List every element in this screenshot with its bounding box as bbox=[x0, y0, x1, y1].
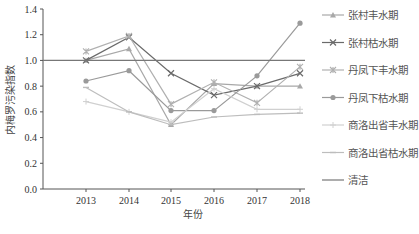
legend-item: 丹凤下丰水期 bbox=[322, 64, 408, 76]
plus-marker-icon bbox=[297, 106, 303, 112]
star-marker-icon bbox=[168, 101, 174, 107]
circle-marker-icon bbox=[83, 78, 88, 83]
triangle-marker-icon bbox=[126, 46, 132, 51]
series-line bbox=[86, 23, 300, 111]
series-0 bbox=[83, 46, 303, 127]
series-line bbox=[86, 36, 300, 104]
x-axis-label: 年份 bbox=[183, 208, 203, 220]
plus-marker-icon bbox=[83, 99, 89, 105]
y-tick-label: 0.6 bbox=[25, 106, 38, 117]
x-tick-label: 2017 bbox=[247, 195, 267, 206]
x-marker-icon bbox=[168, 70, 174, 76]
plus-marker-icon bbox=[254, 106, 260, 112]
series-1 bbox=[83, 34, 303, 98]
y-tick-label: 1.2 bbox=[25, 29, 38, 40]
legend-item: 张村枯水期 bbox=[322, 37, 398, 49]
legend-item: 张村丰水期 bbox=[322, 9, 398, 21]
legend-label: 商洛出省枯水期 bbox=[348, 147, 418, 159]
legend: 张村丰水期张村枯水期丹凤下丰水期丹凤下枯水期商洛出省丰水期商洛出省枯水期清洁 bbox=[322, 9, 418, 186]
legend-label: 商洛出省丰水期 bbox=[348, 119, 418, 131]
star-marker-icon bbox=[254, 100, 260, 106]
legend-label: 丹凤下丰水期 bbox=[348, 64, 408, 76]
y-tick-label: 1.0 bbox=[25, 55, 38, 66]
star-marker-icon bbox=[211, 79, 217, 85]
circle-marker-icon bbox=[168, 108, 173, 113]
legend-label: 张村枯水期 bbox=[348, 37, 398, 49]
y-tick-label: 1.4 bbox=[25, 4, 38, 15]
legend-item: 商洛出省枯水期 bbox=[322, 147, 418, 159]
legend-label: 张村丰水期 bbox=[348, 9, 398, 21]
plot-area bbox=[43, 21, 305, 128]
x-tick-label: 2018 bbox=[290, 195, 310, 206]
circle-marker-icon bbox=[297, 21, 302, 26]
x-tick-label: 2016 bbox=[204, 195, 224, 206]
y-tick-label: 0.0 bbox=[25, 184, 38, 195]
axes: 0.00.20.40.60.81.01.21.42013201420152016… bbox=[25, 4, 311, 207]
legend-label: 丹凤下枯水期 bbox=[348, 92, 408, 104]
circle-marker-icon bbox=[330, 95, 335, 100]
x-tick-label: 2013 bbox=[76, 195, 96, 206]
circle-marker-icon bbox=[126, 68, 131, 73]
x-tick-label: 2015 bbox=[161, 195, 181, 206]
y-tick-label: 0.8 bbox=[25, 81, 38, 92]
plus-marker-icon bbox=[330, 122, 336, 128]
legend-item: 清洁 bbox=[322, 174, 368, 186]
x-tick-label: 2014 bbox=[119, 195, 139, 206]
legend-label: 清洁 bbox=[348, 174, 368, 186]
series-3 bbox=[83, 21, 302, 114]
legend-item: 丹凤下枯水期 bbox=[322, 92, 408, 104]
y-tick-label: 0.2 bbox=[25, 158, 38, 169]
y-axis-label: 内梅罗污染指数 bbox=[4, 65, 16, 135]
line-chart: 0.00.20.40.60.81.01.21.42013201420152016… bbox=[0, 0, 419, 234]
circle-marker-icon bbox=[211, 108, 216, 113]
star-marker-icon bbox=[83, 48, 89, 54]
y-tick-label: 0.4 bbox=[25, 132, 38, 143]
x-marker-icon bbox=[297, 70, 303, 76]
legend-item: 商洛出省丰水期 bbox=[322, 119, 418, 131]
circle-marker-icon bbox=[254, 73, 259, 78]
star-marker-icon bbox=[297, 64, 303, 70]
